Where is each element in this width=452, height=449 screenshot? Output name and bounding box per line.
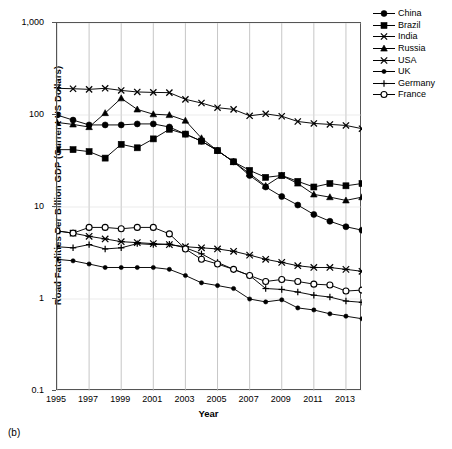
- legend-label: USA: [398, 55, 417, 66]
- series-usa: [57, 228, 362, 275]
- y-tick-label: 100: [29, 109, 44, 119]
- legend-label: France: [398, 89, 426, 100]
- legend-item-usa[interactable]: USA: [372, 54, 452, 66]
- chart-svg: [57, 23, 362, 391]
- y-axis-ticks: 1,0001001010.1: [0, 22, 52, 390]
- x-tick-label: 1995: [46, 394, 66, 404]
- legend-marker-small-filled-circle-icon: [372, 66, 396, 77]
- x-axis-title: Year: [56, 408, 361, 419]
- x-tick-label: 2005: [207, 394, 227, 404]
- x-tick-label: 1999: [110, 394, 130, 404]
- legend-marker-filled-triangle-icon: [372, 43, 396, 54]
- series-brazil: [57, 126, 362, 190]
- legend-marker-filled-square-icon: [372, 20, 396, 31]
- legend-item-uk[interactable]: UK: [372, 66, 452, 78]
- series-china: [57, 112, 362, 233]
- y-tick-mark: [52, 390, 56, 391]
- chart-legend: ChinaBrazilIndiaRussiaUSAUKGermanyFrance: [372, 8, 452, 101]
- legend-marker-filled-circle-icon: [372, 8, 396, 19]
- legend-label: China: [398, 8, 422, 19]
- legend-marker-plus-icon: [372, 78, 396, 89]
- figure-caption: (b): [8, 427, 20, 438]
- series-france: [57, 224, 362, 294]
- legend-marker-asterisk-star-icon: [372, 55, 396, 66]
- legend-marker-open-circle-icon: [372, 89, 396, 100]
- legend-item-germany[interactable]: Germany: [372, 78, 452, 90]
- x-tick-label: 2003: [174, 394, 194, 404]
- legend-item-india[interactable]: India: [372, 31, 452, 43]
- decade-gridlines: [57, 23, 362, 391]
- legend-label: Germany: [398, 78, 435, 89]
- x-tick-label: 2011: [303, 394, 322, 404]
- x-tick-label: 2009: [271, 394, 291, 404]
- legend-label: Russia: [398, 43, 426, 54]
- y-tick-label: 10: [34, 201, 44, 211]
- y-tick-label: 0.1: [31, 385, 44, 395]
- legend-label: UK: [398, 66, 411, 77]
- legend-item-france[interactable]: France: [372, 89, 452, 101]
- legend-label: India: [398, 31, 418, 42]
- legend-item-brazil[interactable]: Brazil: [372, 20, 452, 32]
- legend-item-russia[interactable]: Russia: [372, 43, 452, 55]
- y-tick-label: 1: [39, 293, 44, 303]
- legend-label: Brazil: [398, 20, 421, 31]
- series-germany: [57, 240, 362, 305]
- figure-panel: Road Fatalities Per Billion GDP (Current…: [0, 0, 452, 449]
- y-tick-label: 1,000: [21, 17, 44, 27]
- x-tick-label: 2001: [142, 394, 162, 404]
- series-uk: [57, 257, 362, 321]
- x-tick-label: 2013: [335, 394, 355, 404]
- plot-area: [56, 22, 361, 390]
- x-axis-ticks: 1995199719992001200320052007200920112013: [56, 392, 361, 406]
- legend-item-china[interactable]: China: [372, 8, 452, 20]
- x-tick-label: 1997: [78, 394, 98, 404]
- x-tick-label: 2007: [239, 394, 259, 404]
- legend-marker-cross-x-icon: [372, 31, 396, 42]
